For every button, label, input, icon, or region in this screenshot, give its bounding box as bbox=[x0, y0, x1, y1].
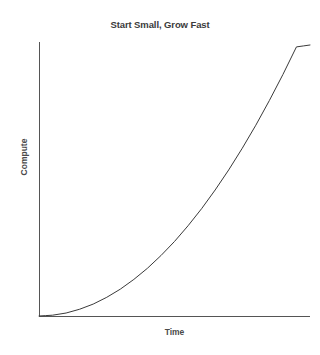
data-line-compute-growth bbox=[39, 45, 310, 316]
y-axis-label: Compute bbox=[19, 117, 29, 197]
x-axis-label: Time bbox=[39, 327, 310, 337]
clipped-caption bbox=[0, 346, 320, 355]
plot-area bbox=[0, 0, 320, 355]
chart-figure: Start Small, Grow Fast Time Compute bbox=[0, 0, 320, 355]
